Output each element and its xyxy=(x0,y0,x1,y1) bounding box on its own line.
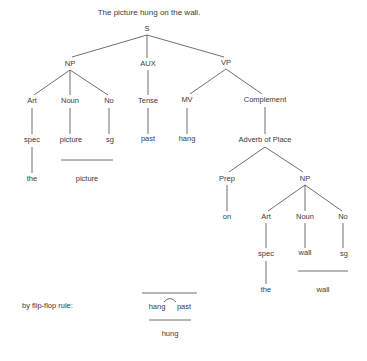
flipflop-past: past xyxy=(177,303,191,311)
node-hang: hang xyxy=(179,135,196,143)
node-no: No xyxy=(104,97,114,105)
node-art-object: Art xyxy=(261,213,271,221)
node-no-object: No xyxy=(338,213,348,221)
node-wall: wall xyxy=(299,249,312,257)
node-the-object: the xyxy=(261,286,271,294)
node-complement: Complement xyxy=(244,96,287,104)
node-spec: spec xyxy=(24,136,40,144)
node-tense: Tense xyxy=(138,97,158,105)
node-picture: picture xyxy=(60,136,83,144)
node-past: past xyxy=(141,135,155,143)
node-wall-result: wall xyxy=(317,286,330,294)
node-picture-result: picture xyxy=(76,175,99,183)
node-adverb-of-place: Adverb of Place xyxy=(239,136,292,144)
syntax-tree-diagram: The picture hung on the wall. S NP AUX V… xyxy=(0,0,367,361)
node-sg-object: sg xyxy=(340,250,348,258)
node-vp: VP xyxy=(221,59,231,67)
node-noun-object: Noun xyxy=(296,213,314,221)
node-sg: sg xyxy=(106,136,114,144)
flipflop-hang: hang xyxy=(149,303,166,311)
flipflop-hung: hung xyxy=(162,330,179,338)
node-spec-object: spec xyxy=(258,250,274,258)
node-prep: Prep xyxy=(219,175,235,183)
node-aux: AUX xyxy=(140,60,155,68)
node-the: the xyxy=(27,175,37,183)
node-mv: MV xyxy=(181,96,192,104)
node-on: on xyxy=(223,213,231,221)
node-art: Art xyxy=(27,97,37,105)
node-noun: Noun xyxy=(61,97,79,105)
flipflop-label: by flip-flop rule: xyxy=(22,302,73,310)
node-s: S xyxy=(144,25,149,33)
sentence-title: The picture hung on the wall. xyxy=(98,9,201,17)
node-np-object: NP xyxy=(300,175,310,183)
node-np: NP xyxy=(65,60,75,68)
